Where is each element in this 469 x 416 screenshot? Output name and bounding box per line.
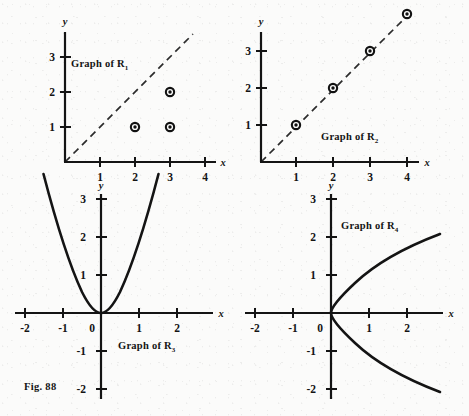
data-point	[165, 87, 175, 97]
y-tick-label-neg1: -1	[306, 345, 316, 357]
x-tick-label-2: 2	[132, 171, 138, 183]
x-tick-label-neg1: -1	[58, 322, 68, 334]
graph-label-r3-text: Graph of R	[118, 340, 172, 351]
graph-label-r4-text: Graph of R	[341, 220, 395, 231]
data-point	[402, 9, 412, 19]
y-tick-label-1: 1	[80, 269, 86, 281]
x-tick-label-neg1: -1	[288, 322, 298, 334]
y-tick-label-1: 1	[49, 121, 55, 133]
data-point	[130, 122, 140, 132]
data-point	[365, 46, 375, 56]
data-point	[165, 122, 175, 132]
graph-r1-svg: 1 2 3 4 1 2 3 x y	[40, 14, 240, 189]
y-tick-label-2: 2	[310, 231, 316, 243]
x-tick-label-neg2: -2	[20, 322, 30, 334]
y-axis-name: y	[327, 180, 334, 191]
y-tick-label-3: 3	[310, 193, 316, 205]
x-tick-label-2: 2	[404, 322, 410, 334]
y-tick-label-2: 2	[80, 231, 86, 243]
x-tick-label-1: 1	[136, 322, 142, 334]
y-tick-label-3: 3	[49, 51, 55, 63]
y-tick-label-1: 1	[245, 119, 251, 131]
x-tick-label-2: 2	[174, 322, 180, 334]
y-tick-label-3: 3	[245, 45, 251, 57]
origin-label: 0	[89, 322, 95, 334]
x-tick-label-1: 1	[366, 322, 372, 334]
graph-label-r1: Graph of R1	[71, 58, 129, 72]
x-axis-name: x	[217, 308, 223, 319]
data-point	[328, 83, 338, 93]
graph-panel-r4: -2 -1 1 2 0 3 2 1 -1 -2 x y Graph of R4	[243, 186, 468, 411]
y-tick-label-neg1: -1	[76, 345, 86, 357]
graph-panel-r2: 1 2 3 4 1 2 3 x y	[243, 14, 448, 189]
data-point	[291, 120, 301, 130]
y-tick-label-neg2: -2	[306, 383, 316, 395]
y-tick-label-3: 3	[80, 193, 86, 205]
x-tick-label-3: 3	[167, 171, 173, 183]
y-axis-name: y	[61, 16, 68, 27]
graph-panel-r1: 1 2 3 4 1 2 3 x y	[40, 14, 240, 189]
x-tick-label-3: 3	[367, 171, 373, 183]
graph-label-r3-subscript: 3	[172, 346, 176, 354]
y-axis-name: y	[97, 180, 104, 191]
y-tick-label-1: 1	[310, 269, 316, 281]
x-axis-name: x	[219, 157, 225, 168]
graph-label-r4-subscript: 4	[395, 226, 399, 234]
graph-label-r2-text: Graph of R	[321, 131, 375, 142]
figure-caption: Fig. 88	[24, 381, 56, 392]
graph-label-r2-subscript: 2	[375, 137, 379, 145]
graph-label-r1-subscript: 1	[125, 64, 129, 72]
origin-label: 0	[317, 322, 323, 334]
y-axis-name: y	[257, 16, 264, 27]
figure-page: 1 2 3 4 1 2 3 x y	[0, 0, 469, 416]
graph-r2-svg: 1 2 3 4 1 2 3 x y	[243, 14, 448, 189]
graph-r3-svg: -2 -1 1 2 0 3 2 1 -1 -2 x y	[8, 186, 233, 411]
y-tick-label-2: 2	[245, 82, 251, 94]
x-tick-label-4: 4	[202, 171, 208, 183]
graph-label-r2: Graph of R2	[321, 131, 379, 145]
x-tick-label-neg2: -2	[250, 322, 260, 334]
x-tick-label-4: 4	[404, 171, 410, 183]
x-axis-name: x	[447, 308, 453, 319]
graph-label-r4: Graph of R4	[341, 220, 399, 234]
graph-label-r1-text: Graph of R	[71, 58, 125, 69]
graph-panel-r3: -2 -1 1 2 0 3 2 1 -1 -2 x y Graph of R3	[8, 186, 233, 411]
x-axis-name: x	[423, 157, 429, 168]
y-tick-label-2: 2	[49, 86, 55, 98]
x-tick-label-1: 1	[293, 171, 299, 183]
graph-label-r3: Graph of R3	[118, 340, 176, 354]
identity-line-dashed	[65, 34, 193, 162]
y-tick-label-neg2: -2	[76, 383, 86, 395]
